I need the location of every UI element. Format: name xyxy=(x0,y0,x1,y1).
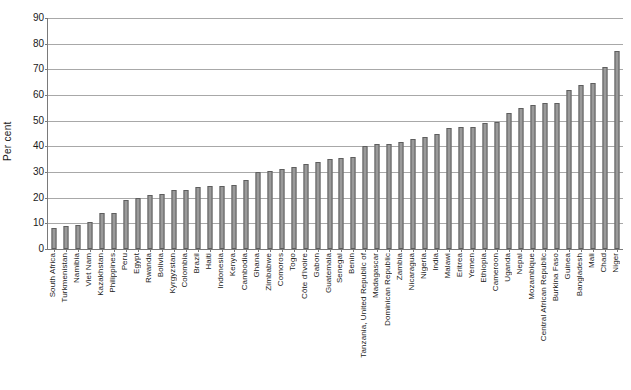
bar-slot xyxy=(443,18,455,249)
bar[interactable] xyxy=(99,213,104,249)
x-tick-label: Malawi xyxy=(444,253,452,279)
bar-slot xyxy=(407,18,419,249)
bar[interactable] xyxy=(183,190,188,249)
x-tick-mark xyxy=(569,249,570,252)
bar-slot xyxy=(419,18,431,249)
x-tick-label: Guatemala xyxy=(325,253,333,293)
x-tick-mark xyxy=(306,249,307,252)
x-tick-label: Indonesia xyxy=(217,253,225,289)
x-tick-label: Viet Nam xyxy=(85,253,93,287)
bar[interactable] xyxy=(543,103,548,249)
bar[interactable] xyxy=(495,122,500,249)
bar[interactable] xyxy=(159,194,164,249)
x-tick-label: Brazil xyxy=(193,253,201,274)
x-tick-label: Madagascar xyxy=(372,253,380,298)
bar-slot xyxy=(180,18,192,249)
bar-slot xyxy=(359,18,371,249)
x-tick-mark xyxy=(413,249,414,252)
bar[interactable] xyxy=(579,85,584,249)
bar-slot xyxy=(264,18,276,249)
bar[interactable] xyxy=(555,103,560,249)
bar[interactable] xyxy=(507,113,512,249)
bar-slot xyxy=(168,18,180,249)
bar[interactable] xyxy=(303,164,308,249)
x-tick-label: Nicaragua xyxy=(408,253,416,290)
bar[interactable] xyxy=(603,67,608,249)
bar[interactable] xyxy=(123,200,128,249)
bar-slot xyxy=(72,18,84,249)
bar[interactable] xyxy=(75,225,80,249)
bar-slot xyxy=(455,18,467,249)
bar[interactable] xyxy=(51,228,56,249)
x-tick-label: Yemen xyxy=(468,253,476,278)
x-tick-label: Senegal xyxy=(336,253,344,283)
bar-slot xyxy=(300,18,312,249)
bar[interactable] xyxy=(243,180,248,249)
bar[interactable] xyxy=(315,162,320,249)
x-tick-label: Ethiopia xyxy=(480,253,488,283)
bar[interactable] xyxy=(363,146,368,249)
x-tick-label: Gabon xyxy=(313,253,321,278)
bar[interactable] xyxy=(171,190,176,249)
bar[interactable] xyxy=(267,171,272,249)
bar[interactable] xyxy=(615,51,620,249)
bar-slot xyxy=(252,18,264,249)
bar[interactable] xyxy=(291,167,296,249)
x-tick-mark xyxy=(126,249,127,252)
y-tick-label: 0 xyxy=(38,244,44,254)
bar[interactable] xyxy=(195,187,200,249)
x-tick-label: Ghana xyxy=(253,253,261,278)
bar[interactable] xyxy=(387,144,392,249)
x-tick-label: Colombia xyxy=(181,253,189,288)
bar[interactable] xyxy=(471,127,476,249)
x-tick-mark xyxy=(365,249,366,252)
bar-slot xyxy=(156,18,168,249)
bar[interactable] xyxy=(567,90,572,249)
bar[interactable] xyxy=(447,128,452,249)
x-tick-mark xyxy=(174,249,175,252)
bar[interactable] xyxy=(339,158,344,249)
bar[interactable] xyxy=(531,105,536,249)
bar-slot xyxy=(60,18,72,249)
x-tick-label: South Africa xyxy=(49,253,57,297)
x-tick-mark xyxy=(473,249,474,252)
x-tick-label: Rwanda xyxy=(145,253,153,283)
bar-slot xyxy=(539,18,551,249)
x-tick-label: Nigeria xyxy=(420,253,428,279)
bar[interactable] xyxy=(519,108,524,249)
bar-chart: Per cent 0102030405060708090 South Afric… xyxy=(0,0,631,390)
x-tick-label: Cambodia xyxy=(241,253,249,290)
x-tick-label: Burkina Faso xyxy=(552,253,560,301)
bar[interactable] xyxy=(399,142,404,249)
bar[interactable] xyxy=(411,139,416,249)
bar[interactable] xyxy=(135,198,140,249)
x-tick-label: Egypt xyxy=(133,253,141,274)
x-tick-mark xyxy=(593,249,594,252)
x-tick-mark xyxy=(138,249,139,252)
bar-slot xyxy=(491,18,503,249)
x-tick-mark xyxy=(461,249,462,252)
bar[interactable] xyxy=(111,213,116,249)
x-tick-label: Guinea xyxy=(564,253,572,279)
bar[interactable] xyxy=(231,185,236,249)
bar[interactable] xyxy=(591,83,596,249)
bar[interactable] xyxy=(147,195,152,249)
bar[interactable] xyxy=(375,144,380,249)
bar[interactable] xyxy=(279,169,284,249)
bar[interactable] xyxy=(63,226,68,249)
x-tick-label: Zambia xyxy=(396,253,404,280)
bar[interactable] xyxy=(459,127,464,249)
bar-slot xyxy=(120,18,132,249)
bar-slot xyxy=(312,18,324,249)
bar[interactable] xyxy=(435,134,440,250)
bar[interactable] xyxy=(351,157,356,249)
bar[interactable] xyxy=(327,159,332,249)
bar[interactable] xyxy=(207,186,212,249)
bar[interactable] xyxy=(483,123,488,249)
bar[interactable] xyxy=(255,172,260,249)
y-tick-label: 90 xyxy=(33,13,44,23)
y-tick-label: 20 xyxy=(33,193,44,203)
bar[interactable] xyxy=(219,186,224,249)
bar[interactable] xyxy=(423,137,428,249)
bar[interactable] xyxy=(87,222,92,249)
